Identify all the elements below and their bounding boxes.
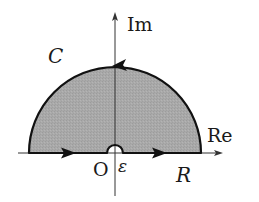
imag-axis-label: Im <box>127 13 153 35</box>
contour-label: C <box>48 44 63 68</box>
contour-diagram: Im Re C O ε R <box>0 0 259 202</box>
real-axis-label: Re <box>207 124 233 146</box>
radius-label: R <box>175 163 191 187</box>
origin-label: O <box>93 158 109 180</box>
epsilon-label: ε <box>118 156 127 176</box>
